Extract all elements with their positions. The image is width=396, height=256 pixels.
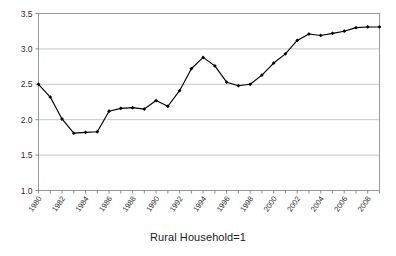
line-chart: 1.01.52.02.53.03.5 198019821984198619881… <box>0 0 396 256</box>
chart-background <box>0 0 396 256</box>
x-axis-title: Rural Household=1 <box>0 231 396 243</box>
svg-text:2.0: 2.0 <box>21 115 33 125</box>
svg-text:3.5: 3.5 <box>21 9 33 19</box>
svg-text:2.5: 2.5 <box>21 79 33 89</box>
svg-text:1.5: 1.5 <box>21 150 33 160</box>
svg-text:3.0: 3.0 <box>21 44 33 54</box>
chart-container: 1.01.52.02.53.03.5 198019821984198619881… <box>0 0 396 256</box>
svg-text:1.0: 1.0 <box>21 186 33 196</box>
